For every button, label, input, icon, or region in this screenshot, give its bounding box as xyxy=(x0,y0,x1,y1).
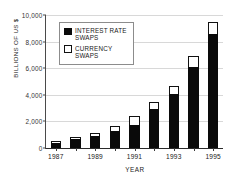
y-tick-label: 10,000 xyxy=(22,12,43,19)
bar-segment-interest-rate-swaps xyxy=(70,139,80,148)
bar-segment-interest-rate-swaps xyxy=(90,136,100,148)
x-tick-mark xyxy=(135,148,136,151)
x-tick-mark xyxy=(115,148,116,151)
x-tick-label: 1993 xyxy=(166,153,181,160)
bar-group xyxy=(110,126,120,148)
x-tick-label: 1991 xyxy=(127,153,142,160)
x-tick-mark xyxy=(174,148,175,151)
y-tick-label: 4,000 xyxy=(26,91,43,98)
x-tick-label: 1995 xyxy=(205,153,220,160)
x-tick-label: 1987 xyxy=(48,153,63,160)
bar-segment-currency-swaps xyxy=(149,102,159,109)
bar-segment-interest-rate-swaps xyxy=(169,94,179,148)
bar-group xyxy=(149,102,159,148)
bar-group xyxy=(188,56,198,148)
bar-segment-currency-swaps xyxy=(208,22,218,34)
legend-item-currency-swaps: CURRENCY SWAPS xyxy=(64,45,127,60)
x-tick-mark xyxy=(56,148,57,151)
y-tick-label: 2,000 xyxy=(26,118,43,125)
x-tick-label: 1989 xyxy=(87,153,102,160)
plot-area: 02,0004,0006,0008,00010,000 198719891991… xyxy=(45,15,223,149)
bar-segment-currency-swaps xyxy=(129,116,139,125)
bar-group xyxy=(90,133,100,148)
y-tick-label: 8,000 xyxy=(26,38,43,45)
bar-group xyxy=(70,137,80,148)
legend-swatch-currency-swaps xyxy=(64,45,72,53)
bar-segment-currency-swaps xyxy=(169,86,179,95)
x-tick-mark xyxy=(194,148,195,151)
bar-segment-interest-rate-swaps xyxy=(110,131,120,148)
legend-label-currency-swaps: CURRENCY SWAPS xyxy=(75,45,112,60)
legend-item-interest-rate-swaps: INTEREST RATE SWAPS xyxy=(64,27,127,42)
x-tick-mark xyxy=(95,148,96,151)
x-tick-mark xyxy=(76,148,77,151)
legend-swatch-interest-rate-swaps xyxy=(64,28,72,36)
bar-segment-interest-rate-swaps xyxy=(208,34,218,148)
x-axis-title: YEAR xyxy=(45,166,225,173)
bar-segment-interest-rate-swaps xyxy=(149,109,159,148)
bar-group xyxy=(169,86,179,149)
y-axis-title: BILLIONS OF US $ xyxy=(10,0,22,98)
y-tick-label: 0 xyxy=(39,145,43,152)
bar-chart: BILLIONS OF US $ 02,0004,0006,0008,00010… xyxy=(0,0,231,184)
bar-segment-currency-swaps xyxy=(188,56,198,67)
legend-label-interest-rate-swaps: INTEREST RATE SWAPS xyxy=(75,27,127,42)
bar-group xyxy=(129,116,139,148)
x-tick-mark xyxy=(213,148,214,151)
bar-group xyxy=(208,22,218,148)
bar-group xyxy=(51,141,61,148)
bar-segment-interest-rate-swaps xyxy=(129,125,139,148)
y-tick-label: 6,000 xyxy=(26,65,43,72)
x-tick-mark xyxy=(154,148,155,151)
bar-segment-interest-rate-swaps xyxy=(188,67,198,148)
chart-legend: INTEREST RATE SWAPS CURRENCY SWAPS xyxy=(59,22,134,65)
